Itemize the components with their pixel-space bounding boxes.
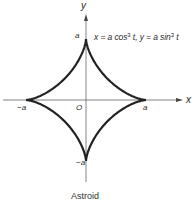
figure-caption: Astroid [71,192,99,201]
equation-y-part: y = a sin [140,32,171,42]
y-axis-label: y [81,1,86,11]
x-axis-arrow-icon [176,98,183,102]
equation-y-var: t [174,32,179,42]
equation-x-part: x = a cos [94,32,127,42]
x-tick-neg-a: −a [17,104,26,112]
y-tick-a: a [75,32,79,40]
y-axis-arrow-icon [84,14,88,21]
astroid-figure: y x a −a −a a O x = a cos3 t, y = a sin3… [0,0,194,208]
y-tick-neg-a: −a [76,159,85,167]
x-axis-label: x [186,95,191,105]
parametric-equation: x = a cos3 t, y = a sin3 t [94,33,178,42]
x-tick-a: a [143,104,147,112]
origin-label: O [76,104,82,112]
equation-x-var: t, [131,32,140,42]
